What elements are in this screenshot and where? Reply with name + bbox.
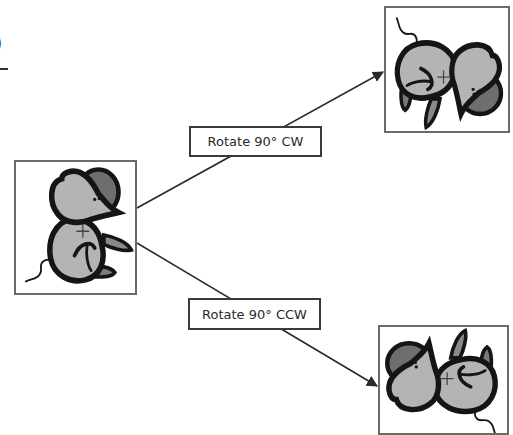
rotate-cw-label-text: Rotate 90° CW: [208, 134, 304, 149]
mouse-image: [16, 162, 135, 293]
original-mouse-panel: [14, 160, 137, 295]
rotate-cw-label: Rotate 90° CW: [189, 126, 322, 157]
rotated-cw-mouse-panel: [384, 6, 510, 133]
rotate-ccw-label-text: Rotate 90° CCW: [202, 307, 307, 322]
mouse-image-rotated-cw: [386, 8, 508, 131]
rotate-ccw-label: Rotate 90° CCW: [188, 298, 321, 330]
rotated-ccw-mouse-panel: [378, 325, 509, 435]
mouse-image-rotated-ccw: [380, 327, 507, 433]
